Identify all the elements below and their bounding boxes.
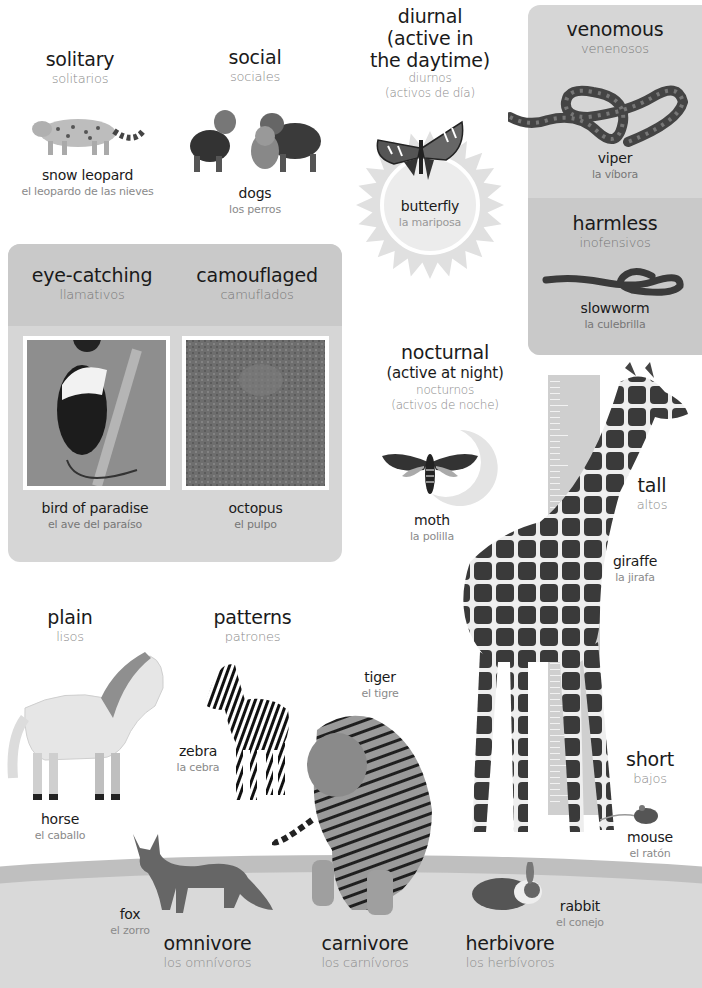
animal-name: mouse <box>615 829 685 846</box>
animal-translation: la víbora <box>555 167 675 182</box>
snow-leopard-label: snow leopard el leopardo de las nieves <box>0 167 175 199</box>
eye-catching-title: eye-catching <box>22 264 162 286</box>
plain-section: plain lisos <box>20 606 120 645</box>
rabbit-label: rabbit el conejo <box>545 898 615 930</box>
venomous-subtitle: venenosos <box>540 40 690 57</box>
rabbit-photo <box>470 862 550 912</box>
camouflaged-section: camouflaged camuflados <box>182 264 332 303</box>
mouse-label: mouse el ratón <box>615 829 685 861</box>
slowworm-photo <box>542 262 687 296</box>
diurnal-section: diurnal (active in the daytime) diurnos … <box>355 5 505 101</box>
butterfly-photo <box>374 118 466 190</box>
animal-translation: los perros <box>195 202 315 217</box>
animal-name: tiger <box>340 669 420 686</box>
animal-translation: el tigre <box>340 686 420 701</box>
venomous-section: venomous venenosos <box>540 18 690 57</box>
camouflaged-title: camouflaged <box>182 264 332 286</box>
snow-leopard-photo <box>28 105 148 160</box>
animal-name: octopus <box>182 500 329 517</box>
bird-of-paradise-label: bird of paradise el ave del paraíso <box>20 500 170 532</box>
animal-translation: el pulpo <box>182 517 329 532</box>
viper-label: viper la víbora <box>555 150 675 182</box>
omnivore-subtitle: los omnívoros <box>155 954 260 971</box>
tiger-label: tiger el tigre <box>340 669 420 701</box>
animal-name: butterfly <box>370 198 490 215</box>
animal-name: dogs <box>195 185 315 202</box>
animal-name: zebra <box>168 743 228 760</box>
tall-section: tall altos <box>617 474 687 513</box>
nocturnal-title-line-1: nocturnal <box>370 341 520 363</box>
social-title: social <box>195 46 315 68</box>
diurnal-subtitle-line-1: diurnos <box>355 71 505 86</box>
patterns-subtitle: patrones <box>200 628 305 645</box>
diurnal-subtitle-line-2: (activos de día) <box>355 86 505 101</box>
carnivore-section: carnivore los carnívoros <box>310 932 420 971</box>
diurnal-title-line-1: diurnal <box>355 5 505 27</box>
solitary-title: solitary <box>20 48 140 70</box>
octopus-label: octopus el pulpo <box>182 500 329 532</box>
zebra-label: zebra la cebra <box>168 743 228 775</box>
plain-subtitle: lisos <box>20 628 120 645</box>
social-section: social sociales <box>195 46 315 85</box>
mouse-photo <box>600 802 662 826</box>
animal-name: giraffe <box>600 553 670 570</box>
giraffe-label: giraffe la jirafa <box>600 553 670 585</box>
animal-translation: el caballo <box>10 828 110 843</box>
omnivore-section: omnivore los omnívoros <box>155 932 260 971</box>
short-section: short bajos <box>615 748 685 787</box>
animal-name: fox <box>105 906 155 923</box>
tiger-photo <box>272 710 437 920</box>
bird-of-paradise-photo <box>23 336 170 490</box>
animal-translation: el leopardo de las nieves <box>0 184 175 199</box>
animal-name: snow leopard <box>0 167 175 184</box>
short-title: short <box>615 748 685 770</box>
animal-name: horse <box>10 811 110 828</box>
horse-label: horse el caballo <box>10 811 110 843</box>
animal-translation: el ratón <box>615 846 685 861</box>
carnivore-subtitle: los carnívoros <box>310 954 420 971</box>
carnivore-title: carnivore <box>310 932 420 954</box>
animal-translation: la jirafa <box>600 570 670 585</box>
diurnal-title-line-3: the daytime) <box>355 49 505 71</box>
animal-translation: la cebra <box>168 760 228 775</box>
animal-name: rabbit <box>545 898 615 915</box>
animal-name: viper <box>555 150 675 167</box>
tall-title: tall <box>617 474 687 496</box>
herbivore-title: herbivore <box>455 932 565 954</box>
horse-photo <box>5 648 170 808</box>
camouflaged-subtitle: camuflados <box>182 286 332 303</box>
patterns-title: patterns <box>200 606 305 628</box>
harmless-section: harmless inofensivos <box>540 212 690 251</box>
slowworm-label: slowworm la culebrilla <box>555 300 675 332</box>
fox-photo <box>128 828 276 918</box>
fox-label: fox el zorro <box>105 906 155 938</box>
social-subtitle: sociales <box>195 68 315 85</box>
short-subtitle: bajos <box>615 770 685 787</box>
eye-catching-section: eye-catching llamativos <box>22 264 162 303</box>
tall-subtitle: altos <box>617 496 687 513</box>
animal-translation: el ave del paraíso <box>20 517 170 532</box>
animal-translation: la culebrilla <box>555 317 675 332</box>
dogs-photo <box>180 96 330 178</box>
diurnal-title-line-2: (active in <box>355 27 505 49</box>
dogs-label: dogs los perros <box>195 185 315 217</box>
herbivore-subtitle: los herbívoros <box>455 954 565 971</box>
patterns-section: patterns patrones <box>200 606 305 645</box>
venomous-title: venomous <box>540 18 690 40</box>
viper-photo <box>508 72 688 152</box>
solitary-subtitle: solitarios <box>20 70 140 87</box>
omnivore-title: omnivore <box>155 932 260 954</box>
animal-translation: el conejo <box>545 915 615 930</box>
animal-translation: la mariposa <box>370 215 490 230</box>
animal-name: bird of paradise <box>20 500 170 517</box>
animal-name: slowworm <box>555 300 675 317</box>
solitary-section: solitary solitarios <box>20 48 140 87</box>
plain-title: plain <box>20 606 120 628</box>
octopus-photo <box>182 336 329 490</box>
animal-translation: el zorro <box>105 923 155 938</box>
butterfly-label: butterfly la mariposa <box>370 198 490 230</box>
harmless-subtitle: inofensivos <box>540 234 690 251</box>
eye-catching-subtitle: llamativos <box>22 286 162 303</box>
herbivore-section: herbivore los herbívoros <box>455 932 565 971</box>
harmless-title: harmless <box>540 212 690 234</box>
